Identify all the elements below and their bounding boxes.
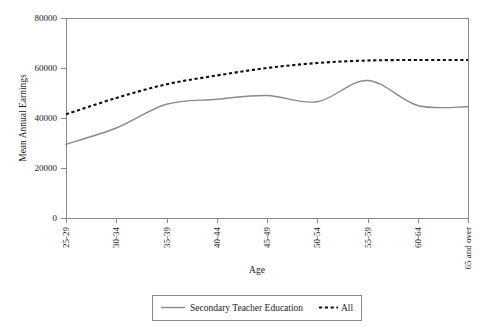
x-tick-label-40-44: 40-44 <box>212 227 222 248</box>
y-tick-label-60000: 60000 <box>35 63 58 73</box>
x-tick-label-55-59: 55-59 <box>363 227 373 248</box>
earnings-by-age-line-chart: 0 20000 40000 60000 80000 Mean Annual Ea… <box>0 0 486 326</box>
x-tick-label-60-64: 60-64 <box>413 227 423 248</box>
y-tick-label-0: 0 <box>53 213 58 223</box>
x-tick-label-65-and-over: 65 and over <box>463 227 473 270</box>
x-axis-title: Age <box>249 265 265 275</box>
x-tick-label-25-29: 25-29 <box>61 227 71 248</box>
x-tick-label-30-34: 30-34 <box>111 227 121 248</box>
x-tick-label-45-49: 45-49 <box>262 227 272 248</box>
chart-legend: Secondary Teacher Education All <box>152 295 361 320</box>
y-tick-label-40000: 40000 <box>35 113 58 123</box>
plot-area-frame <box>66 18 468 218</box>
y-tick-label-80000: 80000 <box>35 13 58 23</box>
chart-container: 0 20000 40000 60000 80000 Mean Annual Ea… <box>0 0 486 326</box>
x-tick-label-50-54: 50-54 <box>312 227 322 248</box>
x-tick-label-35-39: 35-39 <box>162 227 172 248</box>
y-axis-title: Mean Annual Earnings <box>18 74 28 162</box>
legend-label-secondary-teacher-education: Secondary Teacher Education <box>190 303 303 313</box>
x-axis-ticks <box>66 218 468 223</box>
y-tick-label-20000: 20000 <box>35 163 58 173</box>
legend-label-all: All <box>341 303 354 313</box>
y-axis-ticks <box>61 18 66 218</box>
